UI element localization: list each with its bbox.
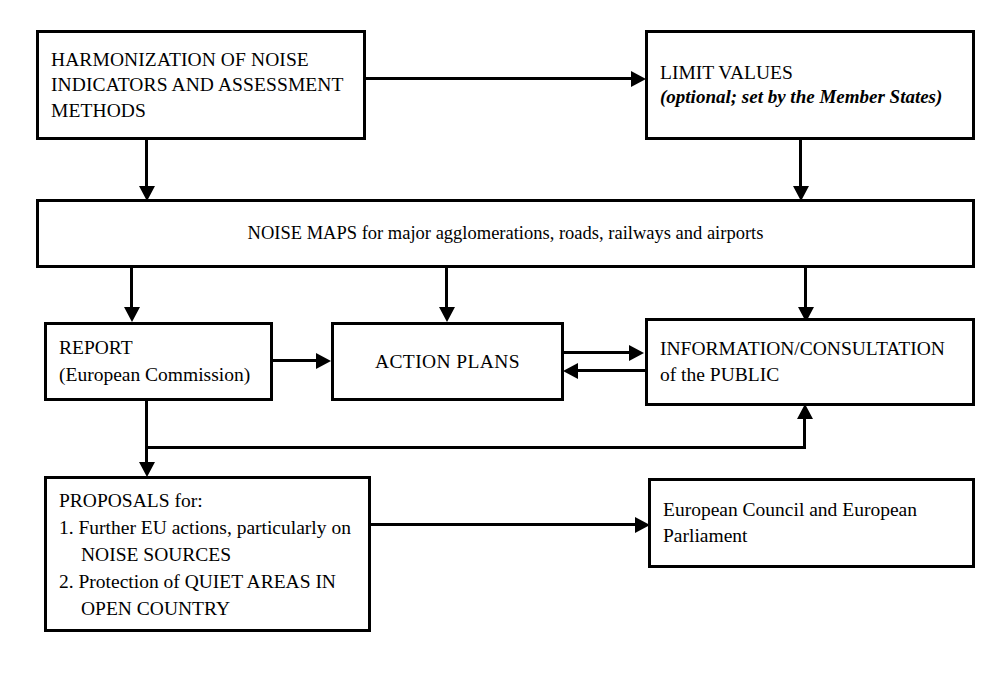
node-proposals-line-4: 2. Protection of QUIET AREAS IN bbox=[59, 569, 336, 596]
arrowhead-information-to-action-plans bbox=[563, 363, 578, 379]
node-proposals-line-5: OPEN COUNTRY bbox=[59, 596, 230, 623]
node-limit-values-line-1: LIMIT VALUES bbox=[660, 60, 793, 85]
connector-noise-maps-to-report bbox=[130, 267, 133, 308]
node-report-line-1: REPORT bbox=[59, 335, 133, 361]
node-proposals-line-2: 1. Further EU actions, particularly on bbox=[59, 515, 351, 542]
connector-noise-maps-to-action-plans bbox=[445, 267, 448, 308]
node-harmonization-of-noise-indicators[interactable]: HARMONIZATION OF NOISE INDICATORS AND AS… bbox=[36, 30, 366, 140]
node-noise-maps-line-1: NOISE MAPS for major agglomerations, roa… bbox=[248, 223, 764, 244]
connector-information-to-action-plans bbox=[578, 369, 646, 372]
node-action-plans[interactable]: ACTION PLANS bbox=[331, 322, 564, 401]
connector-noise-maps-to-information bbox=[804, 267, 807, 308]
connector-harmonization-to-limit-values bbox=[363, 77, 633, 80]
arrowhead-report-to-proposals bbox=[139, 462, 155, 477]
connector-harmonization-to-noise-maps bbox=[145, 139, 148, 187]
arrowhead-report-branch-to-information bbox=[797, 404, 813, 419]
connector-limit-values-to-noise-maps bbox=[799, 139, 802, 187]
node-proposals-line-3: NOISE SOURCES bbox=[59, 542, 231, 569]
node-noise-maps[interactable]: NOISE MAPS for major agglomerations, roa… bbox=[36, 199, 975, 268]
connector-proposals-to-council bbox=[370, 523, 637, 526]
node-european-council-and-parliament[interactable]: European Council and European Parliament bbox=[648, 478, 975, 568]
node-proposals[interactable]: PROPOSALS for: 1. Further EU actions, pa… bbox=[44, 476, 371, 632]
flowchart-canvas: HARMONIZATION OF NOISE INDICATORS AND AS… bbox=[0, 0, 1008, 684]
node-proposals-line-1: PROPOSALS for: bbox=[59, 488, 203, 515]
node-limit-values-line-2: (optional; set by the Member States) bbox=[660, 85, 942, 110]
node-report-european-commission[interactable]: REPORT (European Commission) bbox=[44, 322, 273, 401]
node-harmonization-line-2: INDICATORS AND ASSESSMENT bbox=[51, 72, 344, 97]
arrowhead-noise-maps-to-report bbox=[124, 307, 140, 322]
node-information-line-2: of the PUBLIC bbox=[660, 362, 779, 388]
arrowhead-to-limit-values bbox=[631, 71, 646, 87]
node-information-consultation-of-the-public[interactable]: INFORMATION/CONSULTATION of the PUBLIC bbox=[645, 318, 975, 406]
node-information-line-1: INFORMATION/CONSULTATION bbox=[660, 336, 945, 362]
node-limit-values[interactable]: LIMIT VALUES (optional; set by the Membe… bbox=[645, 30, 975, 140]
node-council-line-2: Parliament bbox=[663, 523, 747, 549]
arrowhead-noise-maps-to-action-plans bbox=[439, 307, 455, 322]
connector-report-branch-horizontal bbox=[146, 446, 806, 449]
arrowhead-report-to-action-plans bbox=[316, 353, 331, 369]
connector-report-to-action-plans bbox=[272, 359, 318, 362]
connector-report-branch-vertical bbox=[803, 418, 806, 447]
node-harmonization-line-3: METHODS bbox=[51, 98, 146, 123]
arrowhead-action-plans-to-information bbox=[629, 345, 644, 361]
connector-report-to-proposals bbox=[145, 400, 148, 463]
node-action-plans-line-1: ACTION PLANS bbox=[375, 351, 520, 373]
node-council-line-1: European Council and European bbox=[663, 497, 917, 523]
connector-action-plans-to-information bbox=[563, 351, 631, 354]
node-report-line-2: (European Commission) bbox=[59, 362, 250, 388]
node-harmonization-line-1: HARMONIZATION OF NOISE bbox=[51, 47, 309, 72]
